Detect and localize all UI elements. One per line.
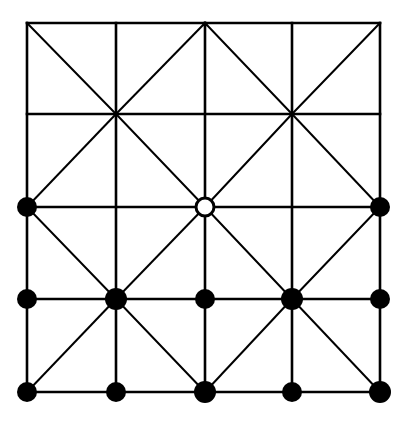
right-mid-vertex [370,197,390,217]
center-hollow-vertex [196,198,214,216]
row3-col2-vertex [195,289,215,309]
top-apex-dot [203,22,208,27]
row4-col4-vertex [369,381,391,403]
row4-col2-vertex [194,381,216,403]
row4-col0-vertex [17,382,37,402]
lattice-canvas [0,0,411,423]
row4-col1-vertex [106,382,126,402]
hollow-node-group [196,198,214,216]
left-mid-vertex [17,197,37,217]
row3-col4-vertex [370,289,390,309]
row3-col3-vertex [281,288,303,310]
row3-col0-vertex [17,289,37,309]
small-dot-group [203,22,208,27]
row3-col1-vertex [105,288,127,310]
row4-col3-vertex [282,382,302,402]
lattice-figure [0,0,411,423]
